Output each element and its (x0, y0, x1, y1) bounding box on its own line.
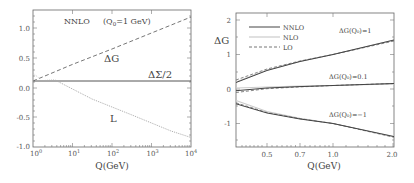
left-ytick-label: -0.5 (17, 114, 31, 122)
left-ytick-label: 1.0 (19, 25, 30, 33)
l-label: L (110, 113, 117, 124)
right-xtick-label: 0.5 (261, 151, 272, 159)
legend-lo-label: LO (283, 44, 293, 52)
svg-text:101: 101 (68, 148, 80, 158)
left-chart: 1.0 0.5 0.0 -0.5 -1.0 100 101 102 103 10… (17, 10, 198, 171)
figure: 1.0 0.5 0.0 -0.5 -1.0 100 101 102 103 10… (0, 0, 414, 183)
right-ytick-label: -1 (224, 120, 231, 128)
l-curve (33, 80, 191, 138)
right-ytick-label: 0 (227, 86, 231, 94)
right-xtick-label: 1.0 (327, 151, 338, 159)
delta-sigma-label: ΔΣ/2 (148, 69, 172, 80)
legend-nnlo-label: NNLO (283, 24, 304, 32)
left-ytick-label: -1.0 (17, 143, 31, 151)
svg-text:100: 100 (30, 148, 42, 158)
right-x-axis-label: Q(GeV) (307, 161, 340, 171)
right-ytick-label: 2 (227, 17, 231, 25)
nnlo-curve-1 (236, 40, 394, 83)
label-dg-1: ΔG(Q₀)=1 (339, 27, 371, 35)
right-xtick-label: 2.0 (386, 151, 397, 159)
left-ytick-label: 0.0 (19, 85, 30, 93)
right-y-ticks (236, 20, 394, 140)
left-x-axis-label: Q(GeV) (95, 161, 128, 171)
left-title-nnlo: NNLO (64, 17, 90, 26)
label-dg-m1: ΔG(Q₀)=−1 (329, 111, 367, 119)
left-title-q0: (Q0=1 GeV) (103, 17, 151, 27)
right-ytick-label: 1 (227, 51, 231, 59)
right-legend: NNLO NLO LO (249, 24, 304, 52)
lo-curve-m1 (236, 103, 394, 138)
left-xtick-labels: 100 101 102 103 104 (30, 148, 197, 158)
legend-nlo-label: NLO (283, 34, 298, 42)
right-chart: 2 1 0 -1 0.5 0.7 1.0 2.0 Q(GeV) ΔG NNLO … (214, 13, 398, 171)
svg-text:103: 103 (147, 148, 159, 158)
right-xtick-label: 0.7 (294, 151, 305, 159)
svg-text:104: 104 (185, 148, 197, 158)
label-dg-0.1: ΔG(Q₀)=0.1 (329, 73, 368, 81)
nlo-curve-1 (236, 40, 394, 82)
svg-text:102: 102 (107, 148, 119, 158)
right-y-axis-label: ΔG (214, 35, 229, 46)
left-ytick-label: 0.5 (19, 55, 30, 63)
delta-g-label: ΔG (104, 53, 119, 64)
